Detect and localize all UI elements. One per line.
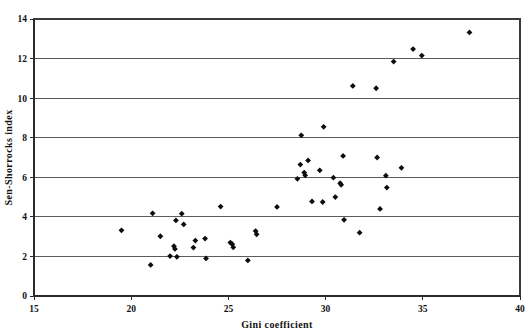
data-point — [297, 162, 303, 168]
data-point — [245, 257, 251, 263]
y-tick-label: 0 — [22, 291, 27, 301]
data-point — [330, 175, 336, 181]
data-point — [274, 204, 280, 210]
gridlines — [34, 59, 520, 257]
plot-area-border — [34, 19, 520, 296]
data-point — [341, 217, 347, 223]
data-point — [410, 46, 416, 52]
x-tick-label: 40 — [515, 304, 525, 314]
data-point — [467, 30, 473, 36]
y-tick-label: 2 — [22, 252, 27, 262]
data-point — [391, 59, 397, 65]
x-tick-label: 20 — [126, 304, 136, 314]
y-tick-label: 6 — [22, 173, 27, 183]
data-point — [305, 158, 311, 164]
data-point — [317, 167, 323, 173]
x-tick-label: 15 — [29, 304, 39, 314]
data-point — [377, 206, 383, 212]
data-point — [340, 153, 346, 159]
data-point — [357, 230, 363, 236]
data-point — [150, 210, 156, 216]
data-point — [191, 245, 197, 251]
data-point — [202, 236, 208, 242]
data-point — [218, 204, 224, 210]
y-tick-label: 12 — [18, 54, 28, 64]
scatter-plot-figure: 02468101214 152025303540 Gini coefficien… — [0, 0, 530, 334]
data-point — [119, 227, 125, 233]
data-point — [399, 165, 405, 171]
y-axis-ticks: 02468101214 — [18, 14, 35, 301]
data-point — [167, 253, 173, 259]
y-tick-label: 10 — [18, 94, 28, 104]
x-tick-label: 25 — [224, 304, 234, 314]
data-point — [320, 199, 326, 205]
data-point — [192, 238, 198, 244]
y-tick-label: 14 — [18, 14, 28, 24]
x-tick-label: 35 — [418, 304, 428, 314]
data-point — [384, 185, 390, 191]
x-axis-ticks: 152025303540 — [29, 296, 525, 314]
data-point — [321, 124, 327, 130]
data-points — [119, 30, 473, 268]
data-point — [350, 83, 356, 89]
data-point — [419, 53, 425, 59]
chart-canvas: 02468101214 152025303540 Gini coefficien… — [0, 0, 530, 334]
data-point — [179, 211, 185, 217]
data-point — [173, 218, 179, 224]
y-tick-label: 8 — [22, 133, 27, 143]
data-point — [157, 233, 163, 239]
x-axis-title: Gini coefficient — [241, 319, 313, 330]
data-point — [309, 199, 315, 205]
data-point — [174, 254, 180, 260]
x-tick-label: 30 — [321, 304, 331, 314]
data-point — [373, 85, 379, 91]
data-point — [148, 262, 154, 268]
data-point — [374, 155, 380, 161]
y-tick-label: 4 — [22, 212, 27, 222]
y-axis-title: Sen-Shorrocks index — [3, 109, 14, 205]
data-point — [332, 194, 338, 200]
data-point — [181, 221, 187, 227]
